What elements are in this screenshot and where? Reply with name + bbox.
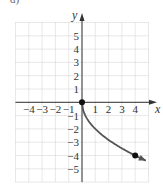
x-tick-label: 4 [132, 103, 138, 115]
x-tick-label: −4 [23, 103, 35, 115]
x-tick-label: −2 [50, 103, 62, 115]
y-tick-label: −3 [67, 136, 79, 148]
y-tick-label: −4 [67, 150, 79, 162]
x-tick-label: 2 [106, 103, 112, 115]
x-tick-label: −3 [36, 103, 48, 115]
y-tick-label: 2 [74, 70, 80, 82]
x-axis-label: x [154, 102, 161, 116]
y-tick-label: 4 [74, 43, 80, 55]
y-tick-label: 5 [74, 30, 80, 42]
y-tick-label: 1 [74, 83, 80, 95]
y-tick-label: 3 [74, 56, 80, 68]
y-axis-label: y [71, 8, 78, 22]
y-tick-label: −2 [67, 123, 79, 135]
data-point [132, 153, 138, 159]
data-point [79, 99, 85, 105]
y-tick-label: −1 [67, 110, 79, 122]
x-tick-label: 1 [93, 103, 99, 115]
x-tick-label: 3 [119, 103, 125, 115]
figure-label: d) [10, 0, 20, 6]
y-axis-arrow-icon [80, 13, 85, 21]
y-tick-label: −5 [67, 163, 79, 175]
function-graph: d) −4−3−2−1123454321−1−2−3−4−5 x y [0, 0, 163, 187]
